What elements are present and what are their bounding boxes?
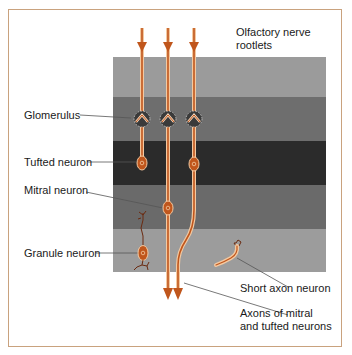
label-olfactory-nerve: Olfactory nerve xyxy=(236,26,311,39)
mitral-neuron xyxy=(163,201,173,215)
granule-neuron xyxy=(134,211,149,270)
glomerulus-3 xyxy=(186,111,202,127)
label-olfactory-rootlets: rootlets xyxy=(236,39,272,52)
fiber-tufted xyxy=(137,28,147,160)
neuron-diagram xyxy=(0,0,352,355)
tufted-neuron-1 xyxy=(137,156,147,170)
label-axons-line2: and tufted neurons xyxy=(240,320,332,333)
label-axons-line1: Axons of mitral xyxy=(240,307,313,320)
label-short-axon-neuron: Short axon neuron xyxy=(240,282,331,295)
fiber-mitral xyxy=(163,28,173,300)
label-granule-neuron: Granule neuron xyxy=(24,247,100,260)
short-axon-neuron xyxy=(216,240,241,265)
glomerulus-1 xyxy=(134,111,150,127)
label-mitral-neuron: Mitral neuron xyxy=(24,184,88,197)
label-tufted-neuron: Tufted neuron xyxy=(24,156,92,169)
tufted-neuron-2 xyxy=(189,157,199,171)
label-glomerulus: Glomerulus xyxy=(24,109,80,122)
glomerulus-2 xyxy=(160,111,176,127)
